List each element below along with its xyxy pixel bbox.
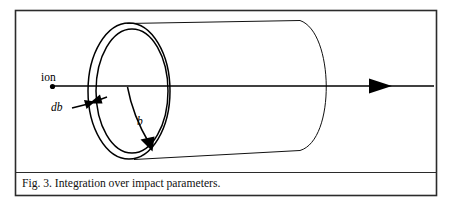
page-background: [0, 0, 450, 201]
figure-caption: Fig. 3. Integration over impact paramete…: [22, 177, 220, 190]
b-label: b: [137, 115, 143, 127]
impact-parameter-diagram: ion db b Fig. 3. Integration over impact…: [0, 0, 450, 201]
figure-container: ion db b Fig. 3. Integration over impact…: [0, 0, 450, 201]
ion-label: ion: [41, 71, 56, 83]
db-label: db: [51, 101, 63, 113]
ion-dot-marker: [50, 84, 55, 89]
